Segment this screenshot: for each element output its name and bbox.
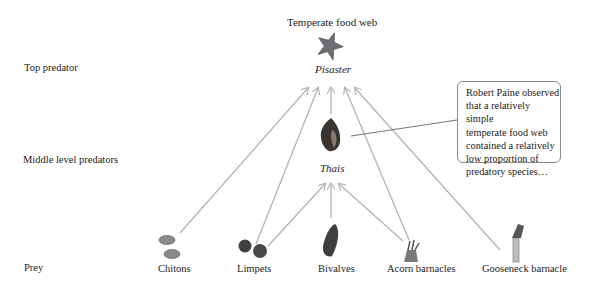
node-label-pisaster: Pisaster — [315, 63, 351, 75]
level-label-middle: Middle level predators — [23, 154, 118, 165]
prey-label-bivalves: Bivalves — [318, 263, 355, 274]
prey-label-acorn-barnacles: Acorn barnacles — [387, 263, 456, 274]
limpet-icon — [239, 240, 268, 259]
prey-label-gooseneck-barnacle: Gooseneck barnacle — [482, 263, 567, 274]
callout-line: that a relatively simple — [466, 99, 560, 125]
arrow-acorn-to-thais — [339, 184, 403, 241]
callout-line: temperate food web — [466, 126, 560, 139]
prey-label-chitons: Chitons — [158, 263, 191, 274]
callout-leader-line — [351, 120, 457, 136]
node-label-thais: Thais — [320, 162, 344, 174]
gooseneck-barnacle-icon — [512, 224, 524, 262]
chiton-icon — [159, 236, 180, 259]
level-label-top: Top predator — [24, 62, 78, 73]
diagram-title: Temperate food web — [287, 16, 377, 28]
callout-box: Robert Paine observed that a relatively … — [457, 81, 561, 163]
callout-line: predatory species… — [466, 165, 560, 178]
callout-line: Robert Paine observed — [466, 86, 560, 99]
prey-label-limpets: Limpets — [237, 263, 271, 274]
snail-shell-icon — [321, 118, 340, 151]
callout-line: low proportion of — [466, 152, 560, 165]
mussel-icon — [323, 224, 338, 257]
starfish-icon — [313, 28, 346, 61]
callout-line: contained a relatively — [466, 139, 560, 152]
level-label-prey: Prey — [24, 262, 43, 273]
acorn-barnacle-icon — [404, 240, 419, 262]
